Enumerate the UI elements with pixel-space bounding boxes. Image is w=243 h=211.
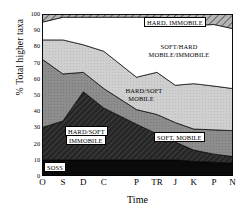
y-tick-70: 70 bbox=[18, 60, 40, 66]
y-tick-40: 40 bbox=[18, 108, 40, 114]
x-axis-ticks: OSDCPTRJKPN bbox=[42, 178, 233, 192]
x-tick-N-9: N bbox=[229, 178, 236, 187]
x-tick-P-8: P bbox=[212, 178, 217, 187]
x-tick-S-1: S bbox=[60, 178, 65, 187]
y-tick-10: 10 bbox=[18, 157, 40, 163]
label-hardsoft-mobile-line1: HARD/SOFT bbox=[116, 87, 172, 94]
stacked-area-chart: % Total higher taxa 01020304050607080901… bbox=[0, 0, 243, 211]
y-tick-0: 0 bbox=[18, 173, 40, 179]
label-soss: SOSS bbox=[44, 162, 66, 172]
label-hard-immobile: HARD, IMMOBILE bbox=[144, 17, 206, 27]
y-tick-60: 60 bbox=[18, 76, 40, 82]
x-tick-J-6: J bbox=[174, 178, 178, 187]
x-tick-D-2: D bbox=[80, 178, 87, 187]
y-tick-30: 30 bbox=[18, 124, 40, 130]
y-tick-20: 20 bbox=[18, 141, 40, 147]
band-soss bbox=[43, 160, 233, 176]
y-tick-80: 80 bbox=[18, 43, 40, 49]
label-softhard-line2: MOBILE/IMMOBILE bbox=[132, 51, 226, 58]
y-tick-100: 100 bbox=[18, 11, 40, 17]
x-tick-K-7: K bbox=[190, 178, 197, 187]
x-tick-TR-5: TR bbox=[151, 178, 163, 187]
label-softhard-line1: SOFT/HARD bbox=[140, 43, 218, 50]
y-axis-ticks: 0102030405060708090100 bbox=[14, 0, 40, 211]
label-hardsoft-immobile-line2: IMMOBILE bbox=[66, 135, 106, 145]
x-tick-O-0: O bbox=[39, 178, 46, 187]
plot-area: HARD, IMMOBILE SOFT/HARD MOBILE/IMMOBILE… bbox=[42, 14, 233, 176]
x-tick-P-4: P bbox=[134, 178, 139, 187]
x-axis-title: Time bbox=[42, 194, 233, 205]
y-tick-50: 50 bbox=[18, 92, 40, 98]
x-tick-C-3: C bbox=[101, 178, 107, 187]
label-soft-mobile: SOFT, MOBILE bbox=[154, 132, 205, 142]
label-hardsoft-mobile-line2: MOBILE bbox=[118, 95, 164, 102]
y-tick-90: 90 bbox=[18, 27, 40, 33]
